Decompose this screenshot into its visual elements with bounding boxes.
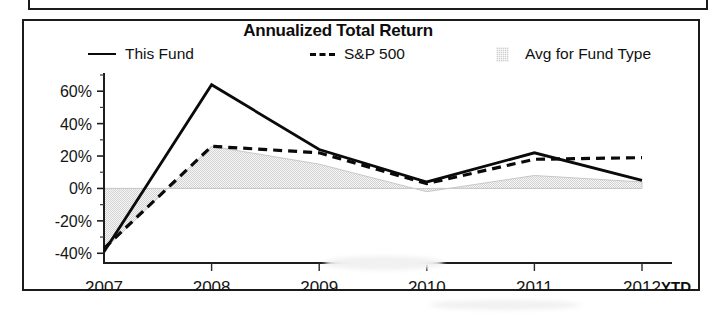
x-axis-tick-labels: 200720082009201020112012 bbox=[85, 278, 661, 291]
y-axis-ticks bbox=[97, 75, 104, 253]
x-axis-ytd-label: YTD bbox=[661, 278, 691, 291]
this-fund-series-line bbox=[104, 85, 642, 252]
legend-label-sp500: S&P 500 bbox=[344, 45, 405, 63]
svg-text:2011: 2011 bbox=[516, 278, 553, 291]
scan-artifact bbox=[324, 256, 444, 270]
legend-label-avg-fund-type: Avg for Fund Type bbox=[525, 45, 651, 63]
chart-legend: This Fund S&P 500 Avg for Fund Type bbox=[24, 43, 684, 65]
legend-item-avg-fund-type: Avg for Fund Type bbox=[496, 43, 651, 65]
avg-fund-type-area bbox=[104, 146, 642, 250]
svg-text:40%: 40% bbox=[60, 116, 92, 133]
svg-text:20%: 20% bbox=[60, 148, 92, 165]
svg-text:-40%: -40% bbox=[55, 245, 92, 262]
svg-text:-20%: -20% bbox=[55, 213, 92, 230]
legend-item-this-fund: This Fund bbox=[88, 43, 194, 65]
svg-text:2010: 2010 bbox=[408, 278, 446, 291]
chart-title: Annualized Total Return bbox=[24, 21, 652, 41]
svg-text:2009: 2009 bbox=[300, 278, 338, 291]
legend-item-sp500: S&P 500 bbox=[310, 43, 405, 65]
y-axis-tick-labels: 60%40%20%0%-20%-40% bbox=[55, 83, 92, 262]
svg-text:60%: 60% bbox=[60, 83, 92, 100]
chart-axes bbox=[103, 73, 672, 263]
dashed-line-swatch-icon bbox=[310, 53, 335, 56]
area-fill-swatch-icon bbox=[496, 47, 509, 62]
sp500-series-line bbox=[104, 146, 642, 248]
svg-text:2007: 2007 bbox=[85, 278, 123, 291]
legend-label-this-fund: This Fund bbox=[125, 45, 194, 63]
solid-line-swatch-icon bbox=[88, 53, 116, 55]
svg-text:2008: 2008 bbox=[193, 278, 231, 291]
svg-text:2012: 2012 bbox=[623, 278, 661, 291]
svg-text:0%: 0% bbox=[69, 180, 92, 197]
annualized-total-return-panel: Annualized Total Return This Fund S&P 50… bbox=[22, 19, 700, 291]
scan-artifact-lower bbox=[430, 300, 580, 310]
panel-fragment-above bbox=[28, 0, 708, 10]
svg-text:YTD: YTD bbox=[661, 278, 691, 291]
